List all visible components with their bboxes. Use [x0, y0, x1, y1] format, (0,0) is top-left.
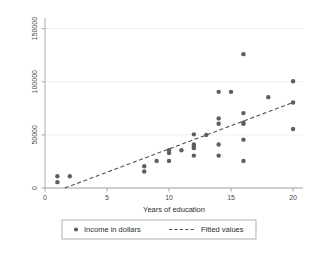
legend-marker-income-icon	[74, 227, 78, 231]
x-tick-label: 5	[105, 194, 109, 201]
x-axis-title: Years of education	[143, 205, 205, 214]
data-point	[216, 90, 220, 94]
data-point	[154, 159, 158, 163]
data-point	[216, 116, 220, 120]
y-tick-label: 150000	[31, 17, 38, 40]
data-point	[204, 133, 208, 137]
data-point	[55, 174, 59, 178]
data-point	[241, 122, 245, 126]
data-point	[291, 127, 295, 131]
data-point	[167, 159, 171, 163]
data-point	[241, 137, 245, 141]
data-point	[192, 132, 196, 136]
data-point	[167, 151, 171, 155]
data-point	[241, 159, 245, 163]
data-point	[291, 79, 295, 83]
data-point	[266, 95, 270, 99]
data-point	[241, 111, 245, 115]
data-point	[192, 146, 196, 150]
data-point	[179, 148, 183, 152]
y-tick-label: 0	[31, 186, 38, 190]
legend-label-fitted: Fitted values	[201, 225, 244, 234]
chart-canvas: 050000100000150000 05101520 Years of edu…	[0, 0, 318, 254]
data-point	[142, 164, 146, 168]
data-point	[216, 153, 220, 157]
data-point	[192, 153, 196, 157]
x-tick-label: 20	[289, 194, 297, 201]
data-point	[291, 100, 295, 104]
x-tick-label: 0	[43, 194, 47, 201]
data-point	[216, 142, 220, 146]
x-tick-label: 15	[227, 194, 235, 201]
y-tick-label: 50000	[31, 125, 38, 145]
x-tick-label: 10	[165, 194, 173, 201]
y-tick-label: 100000	[31, 70, 38, 93]
data-point	[241, 52, 245, 56]
data-point	[142, 169, 146, 173]
chart-legend: Income in dollars Fitted values	[62, 220, 256, 239]
data-point	[55, 180, 59, 184]
figure-background	[0, 0, 318, 254]
legend-label-income: Income in dollars	[84, 225, 141, 234]
scatter-plot-figure: 050000100000150000 05101520 Years of edu…	[0, 0, 318, 254]
data-point	[229, 90, 233, 94]
data-point	[68, 174, 72, 178]
data-point	[216, 122, 220, 126]
